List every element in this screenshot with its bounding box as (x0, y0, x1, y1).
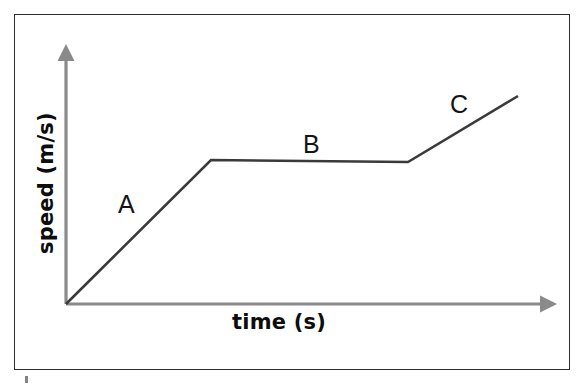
segment-label-a: A (118, 192, 135, 217)
segment-label-c: C (450, 92, 468, 117)
page-artifact-speck (25, 376, 28, 383)
segment-label-b: B (303, 132, 320, 157)
figure-root: speed (m/s) time (s) A B C (0, 0, 584, 384)
x-axis-arrowhead-icon (540, 296, 557, 313)
y-axis-arrowhead-icon (58, 44, 75, 61)
y-axis-title: speed (m/s) (34, 114, 58, 254)
x-axis-title: time (s) (232, 310, 326, 334)
